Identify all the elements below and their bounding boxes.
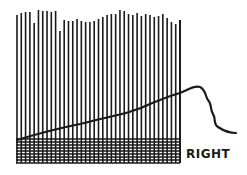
warp-threads bbox=[17, 10, 180, 163]
weft-thread bbox=[17, 87, 236, 140]
woven-weft-rows bbox=[16, 139, 180, 163]
direction-label: RIGHT bbox=[186, 147, 230, 161]
